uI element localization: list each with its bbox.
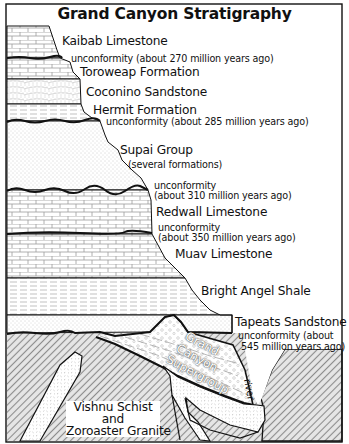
unconformity-285-label: unconformity (about 285 million years ag… <box>106 117 308 127</box>
supai-group-label: Supai Group <box>120 144 193 156</box>
supai-group-note: (several formations) <box>128 160 222 170</box>
coconino-sandstone-layer <box>7 79 81 104</box>
unconformity-310-label-line2: (about 310 million years ago) <box>154 191 292 201</box>
tapeats-sandstone-layer <box>7 315 232 333</box>
coconino-sandstone-label: Coconino Sandstone <box>86 86 207 98</box>
bright-angel-shale-label: Bright Angel Shale <box>201 285 311 297</box>
bright-angel-shale-layer <box>7 278 220 315</box>
muav-limestone-label: Muav Limestone <box>175 248 272 260</box>
stratigraphy-diagram: Grand Canyon Stratigraphy Kaibab Limesto… <box>0 0 349 444</box>
toroweap-formation-layer <box>7 58 80 79</box>
toroweap-formation-label: Toroweap Formation <box>80 66 200 78</box>
hermit-formation-label: Hermit Formation <box>93 104 197 116</box>
diagram-title: Grand Canyon Stratigraphy <box>0 7 349 23</box>
tapeats-sandstone-label: Tapeats Sandstone <box>235 316 347 328</box>
kaibab-limestone-label: Kaibab Limestone <box>62 35 168 47</box>
river-label: river <box>243 378 256 401</box>
redwall-limestone-layer <box>7 190 152 234</box>
basement-label-line3: Zoroaster Granite <box>66 425 160 437</box>
redwall-limestone-label: Redwall Limestone <box>156 206 267 218</box>
unconformity-545-label-line1: unconformity (about <box>238 331 333 341</box>
kaibab-limestone-layer <box>7 26 60 58</box>
unconformity-270-label: unconformity (about 270 million years ag… <box>71 54 273 64</box>
unconformity-545-label-line2: 545 million years ago) <box>241 342 345 352</box>
hermit-formation-layer <box>7 104 100 121</box>
unconformity-350-label-line2: (about 350 million years ago) <box>158 233 296 243</box>
